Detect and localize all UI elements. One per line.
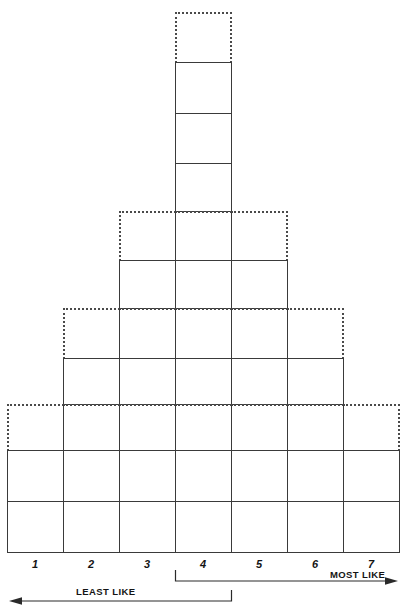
arrow-left-icon [9,597,22,604]
grid-cell-c3-r9[interactable] [119,404,176,451]
grid-cell-c4-r8[interactable] [175,358,232,405]
grid-cell-c7-r11[interactable] [343,501,400,553]
grid-cell-c3-r6[interactable] [119,260,176,309]
grid-cell-c4-r6[interactable] [175,260,232,309]
grid-cell-c7-r9[interactable] [343,404,400,451]
grid-cell-c2-r11[interactable] [63,501,120,553]
grid-cell-c5-r11[interactable] [231,501,288,553]
grid-cell-c4-r3[interactable] [175,113,232,164]
grid-cell-c6-r11[interactable] [287,501,344,553]
grid-cell-c5-r5[interactable] [231,211,288,261]
grid-cell-c5-r6[interactable] [231,260,288,309]
grid-cell-c7-r10[interactable] [343,450,400,502]
grid-cell-c3-r10[interactable] [119,450,176,502]
grid-cell-c3-r5[interactable] [119,211,176,261]
grid-cell-c6-r10[interactable] [287,450,344,502]
grid-cell-c6-r7[interactable] [287,308,344,359]
grid-cell-c1-r11[interactable] [7,501,64,553]
grid-cell-c4-r4[interactable] [175,163,232,212]
least-like-label: LEAST LIKE [76,586,135,597]
grid-cell-c5-r7[interactable] [231,308,288,359]
grid-cell-c5-r8[interactable] [231,358,288,405]
grid-cell-c6-r9[interactable] [287,404,344,451]
grid-cell-c4-r2[interactable] [175,62,232,114]
grid-cell-c1-r9[interactable] [7,404,64,451]
q-sort-grid-figure: 1234567 LEAST LIKE MOST LIKE [0,0,409,612]
grid-cell-c3-r7[interactable] [119,308,176,359]
grid-cell-c2-r10[interactable] [63,450,120,502]
grid-cell-c3-r8[interactable] [119,358,176,405]
grid-cell-c4-r9[interactable] [175,404,232,451]
grid-cell-c2-r7[interactable] [63,308,120,359]
grid-cell-c5-r9[interactable] [231,404,288,451]
arrow-right-icon [385,577,398,584]
grid-cell-c4-r5[interactable] [175,211,232,261]
grid-cell-c1-r10[interactable] [7,450,64,502]
grid-cell-c4-r7[interactable] [175,308,232,359]
grid-cell-c4-r11[interactable] [175,501,232,553]
grid-cell-c4-r10[interactable] [175,450,232,502]
grid-cell-c2-r8[interactable] [63,358,120,405]
grid-cell-c4-r1[interactable] [175,12,232,63]
grid-cell-c6-r8[interactable] [287,358,344,405]
grid-cell-c2-r9[interactable] [63,404,120,451]
grid-cell-c5-r10[interactable] [231,450,288,502]
grid-cell-c3-r11[interactable] [119,501,176,553]
most-like-label: MOST LIKE [330,569,385,580]
